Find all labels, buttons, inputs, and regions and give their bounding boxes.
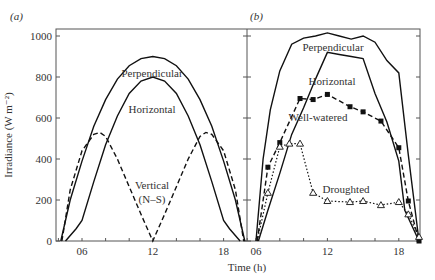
annotation-a-horizontal: Horizontal	[128, 103, 175, 115]
marker-square	[396, 145, 401, 150]
marker-square	[361, 109, 366, 114]
y-tick-label: 800	[36, 71, 53, 83]
series-horizontal	[66, 77, 241, 241]
marker-triangle	[324, 198, 331, 204]
x-tick-label: 18	[393, 245, 405, 257]
series-perpendicular	[61, 57, 245, 242]
marker-triangle	[264, 189, 271, 195]
annotation-a-vertical-ns: (N–S)	[139, 193, 166, 206]
y-axis-label: Irradiance (W m⁻²)	[2, 92, 15, 178]
annotation-b-horizontal: Horizontal	[308, 75, 355, 87]
annotation-b-droughted: Droughted	[322, 183, 370, 195]
x-tick-label: 06	[77, 245, 89, 257]
marker-square	[311, 97, 316, 102]
annotation-a-vertical: Vertical	[135, 179, 169, 191]
marker-square	[265, 165, 270, 170]
x-tick-label: 06	[251, 245, 263, 257]
y-tick-label: 1000	[30, 30, 53, 42]
marker-triangle	[310, 189, 317, 195]
marker-square	[325, 92, 330, 97]
marker-square	[378, 119, 383, 124]
marker-square	[348, 104, 353, 109]
x-tick-label: 12	[147, 245, 158, 257]
y-tick-label: 600	[36, 112, 53, 124]
x-axis-label: Time (h)	[228, 261, 267, 274]
annotation-b-wellwatered: Well-watered	[289, 111, 348, 123]
y-tick-label: 0	[47, 235, 53, 247]
marker-triangle	[297, 140, 304, 146]
marker-triangle	[360, 198, 367, 204]
annotation-b-perpendicular: Perpendicular	[302, 41, 363, 53]
marker-square	[298, 96, 303, 101]
y-tick-label: 400	[36, 153, 53, 165]
panel-label-a: (a)	[10, 10, 23, 23]
y-axis: 02004006008001000	[30, 30, 420, 247]
y-tick-label: 200	[36, 194, 53, 206]
irradiance-chart: (a) (b) 02004006008001000 Irradiance (W …	[0, 0, 435, 280]
marker-triangle	[395, 199, 402, 205]
series-perpendicular	[256, 33, 419, 241]
x-tick-label: 12	[322, 245, 333, 257]
x-tick-label: 18	[218, 245, 230, 257]
panel-a-series	[61, 57, 245, 242]
panel-b-series	[256, 33, 423, 244]
annotation-a-perpendicular: Perpendicular	[121, 67, 182, 79]
marker-square	[406, 199, 411, 204]
panel-label-b: (b)	[250, 10, 263, 23]
